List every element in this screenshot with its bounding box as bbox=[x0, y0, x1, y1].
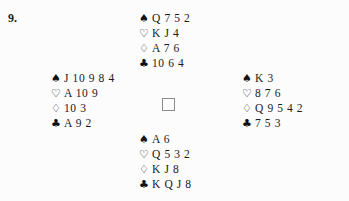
north-clubs-row: ♣ 10 6 4 bbox=[139, 56, 190, 71]
south-clubs-row: ♣ K Q J 8 bbox=[139, 177, 192, 192]
spade-icon: ♠ bbox=[242, 71, 254, 86]
heart-icon: ♡ bbox=[51, 86, 63, 101]
hand-north: ♠ Q 7 5 2 ♡ K J 4 ♢ A 7 6 ♣ 10 6 4 bbox=[139, 11, 190, 71]
south-hearts-row: ♡ Q 5 3 2 bbox=[139, 147, 192, 162]
north-spades-cards: Q 7 5 2 bbox=[151, 11, 190, 26]
west-spades-cards: J 10 9 8 4 bbox=[63, 71, 115, 86]
south-spades-cards: A 6 bbox=[151, 132, 170, 147]
east-diamonds-row: ♢ Q 9 5 4 2 bbox=[242, 101, 303, 116]
spade-icon: ♠ bbox=[139, 11, 151, 26]
heart-icon: ♡ bbox=[242, 86, 254, 101]
west-clubs-row: ♣ A 9 2 bbox=[51, 116, 115, 131]
south-clubs-cards: K Q J 8 bbox=[151, 177, 192, 192]
north-diamonds-cards: A 7 6 bbox=[151, 41, 180, 56]
west-clubs-cards: A 9 2 bbox=[63, 116, 92, 131]
bridge-deal-diagram: 9. ♠ Q 7 5 2 ♡ K J 4 ♢ A 7 6 ♣ 10 6 4 ♠ … bbox=[0, 0, 349, 201]
hand-south: ♠ A 6 ♡ Q 5 3 2 ♢ K J 8 ♣ K Q J 8 bbox=[139, 132, 192, 192]
west-spades-row: ♠ J 10 9 8 4 bbox=[51, 71, 115, 86]
east-clubs-cards: 7 5 3 bbox=[254, 116, 281, 131]
east-hearts-row: ♡ 8 7 6 bbox=[242, 86, 303, 101]
east-hearts-cards: 8 7 6 bbox=[254, 86, 281, 101]
east-diamonds-cards: Q 9 5 4 2 bbox=[254, 101, 303, 116]
east-clubs-row: ♣ 7 5 3 bbox=[242, 116, 303, 131]
heart-icon: ♡ bbox=[139, 147, 151, 162]
south-spades-row: ♠ A 6 bbox=[139, 132, 192, 147]
west-diamonds-row: ♢ 10 3 bbox=[51, 101, 115, 116]
east-spades-row: ♠ K 3 bbox=[242, 71, 303, 86]
south-diamonds-row: ♢ K J 8 bbox=[139, 162, 192, 177]
north-clubs-cards: 10 6 4 bbox=[151, 56, 184, 71]
spade-icon: ♠ bbox=[139, 132, 151, 147]
club-icon: ♣ bbox=[139, 56, 151, 71]
diamond-icon: ♢ bbox=[51, 101, 63, 116]
west-hearts-row: ♡ A 10 9 bbox=[51, 86, 115, 101]
diamond-icon: ♢ bbox=[139, 41, 151, 56]
west-diamonds-cards: 10 3 bbox=[63, 101, 87, 116]
diamond-icon: ♢ bbox=[242, 101, 254, 116]
club-icon: ♣ bbox=[242, 116, 254, 131]
problem-number: 9. bbox=[8, 12, 17, 24]
club-icon: ♣ bbox=[139, 177, 151, 192]
east-spades-cards: K 3 bbox=[254, 71, 274, 86]
diamond-icon: ♢ bbox=[139, 162, 151, 177]
south-diamonds-cards: K J 8 bbox=[151, 162, 179, 177]
club-icon: ♣ bbox=[51, 116, 63, 131]
hand-east: ♠ K 3 ♡ 8 7 6 ♢ Q 9 5 4 2 ♣ 7 5 3 bbox=[242, 71, 303, 131]
hand-west: ♠ J 10 9 8 4 ♡ A 10 9 ♢ 10 3 ♣ A 9 2 bbox=[51, 71, 115, 131]
south-hearts-cards: Q 5 3 2 bbox=[151, 147, 190, 162]
north-hearts-cards: K J 4 bbox=[151, 26, 179, 41]
spade-icon: ♠ bbox=[51, 71, 63, 86]
compass-box bbox=[162, 98, 175, 111]
north-hearts-row: ♡ K J 4 bbox=[139, 26, 190, 41]
heart-icon: ♡ bbox=[139, 26, 151, 41]
north-spades-row: ♠ Q 7 5 2 bbox=[139, 11, 190, 26]
west-hearts-cards: A 10 9 bbox=[63, 86, 98, 101]
north-diamonds-row: ♢ A 7 6 bbox=[139, 41, 190, 56]
